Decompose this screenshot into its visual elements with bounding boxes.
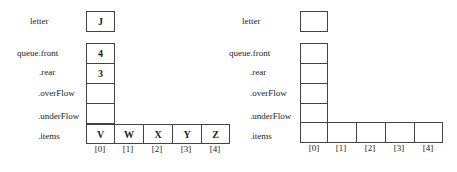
- front-label: queue.front: [17, 48, 58, 58]
- rear-box: [300, 63, 328, 84]
- underflow-box: [86, 103, 115, 124]
- front-label: queue.front: [229, 48, 270, 58]
- front-box: [300, 43, 328, 64]
- index-label: [0]: [86, 144, 114, 154]
- index-label: [4]: [201, 144, 229, 154]
- underflow-label: .underFlow: [250, 111, 291, 121]
- overflow-box: [86, 83, 115, 104]
- letter-box: [300, 11, 328, 32]
- items-label: .items: [38, 131, 60, 141]
- letter-label: letter: [242, 16, 261, 26]
- items-cell: V: [86, 124, 115, 144]
- items-cell: [414, 122, 443, 143]
- underflow-box: [300, 103, 328, 124]
- items-cell: Y: [172, 124, 202, 144]
- rear-label: .rear: [250, 67, 266, 77]
- index-label: [0]: [300, 143, 328, 153]
- index-label: [4]: [414, 143, 442, 153]
- items-cell: [356, 122, 386, 143]
- index-label: [1]: [114, 144, 142, 154]
- items-cell: [327, 122, 357, 143]
- overflow-label: .overFlow: [38, 88, 75, 98]
- letter-box: J: [86, 11, 115, 32]
- items-cell: [300, 122, 328, 143]
- items-label: .items: [250, 131, 272, 141]
- overflow-box: [300, 83, 328, 104]
- index-label: [2]: [143, 144, 171, 154]
- index-label: [2]: [356, 143, 384, 153]
- items-cell: Z: [201, 124, 230, 144]
- rear-box: 3: [86, 63, 115, 84]
- overflow-label: .overFlow: [250, 88, 287, 98]
- index-label: [3]: [385, 143, 413, 153]
- items-cell: X: [143, 124, 173, 144]
- index-label: [3]: [172, 144, 200, 154]
- front-box: 4: [86, 43, 115, 64]
- underflow-label: .underFlow: [38, 111, 79, 121]
- rear-label: .rear: [39, 67, 55, 77]
- items-cell: [385, 122, 415, 143]
- letter-label: letter: [30, 16, 49, 26]
- items-cell: W: [114, 124, 144, 144]
- index-label: [1]: [327, 143, 355, 153]
